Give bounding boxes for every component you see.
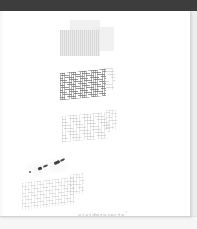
table-grid-tail [104, 67, 115, 90]
document-viewer[interactable]: vividprojects™ [0, 0, 197, 229]
panel-front [60, 30, 100, 56]
table-grid-body [22, 177, 74, 210]
trademark-icon: ™ [125, 211, 128, 215]
wordmark-text: vividprojects [78, 212, 125, 217]
table-grid-body [62, 112, 110, 142]
document-page[interactable]: vividprojects™ [0, 11, 191, 217]
faded-panel-group [58, 20, 120, 66]
page-canvas: vividprojects™ [0, 11, 190, 216]
page-gutter-shading [0, 11, 4, 216]
document-viewer-toolbar[interactable] [0, 0, 197, 11]
table-grid-body [60, 69, 106, 100]
faded-table-grid-faint [62, 110, 117, 142]
table-grid-tail [70, 173, 84, 195]
vividprojects-wordmark: vividprojects™ [78, 211, 128, 217]
faded-table-grid-ghost [22, 174, 84, 208]
table-grid-tail [106, 110, 117, 131]
faded-table-grid-dense [60, 68, 115, 102]
page-background-strip [0, 216, 197, 229]
ink-mark [29, 171, 31, 173]
